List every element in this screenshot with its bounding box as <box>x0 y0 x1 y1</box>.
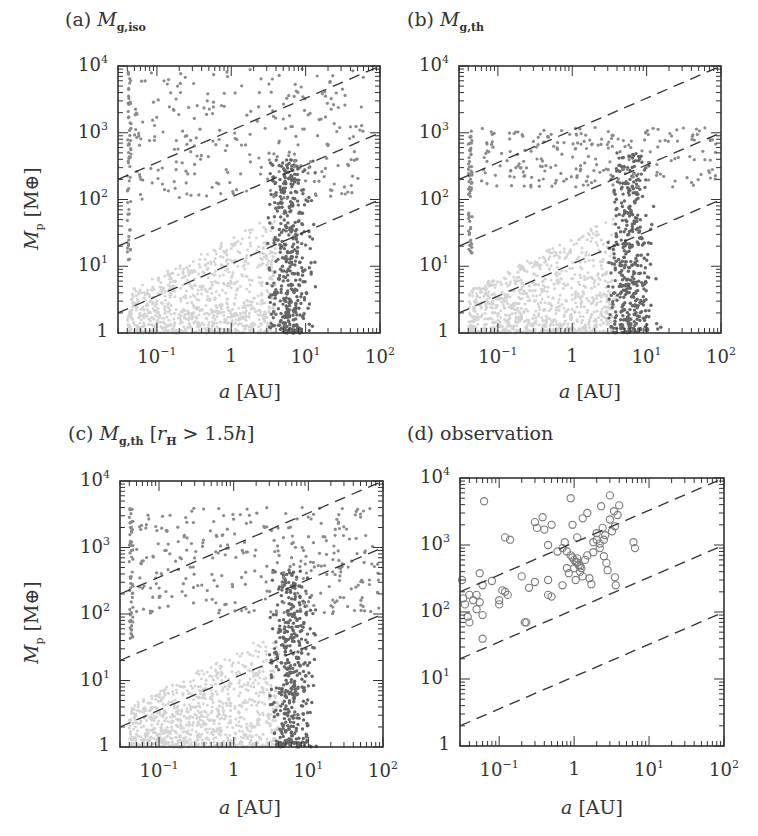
y-tick-label: 1 <box>400 733 450 754</box>
panel-label: (c) <box>68 422 93 444</box>
scatter-plot-c <box>120 481 383 747</box>
panel-title-sub: g,iso <box>117 21 146 34</box>
y-tick-label: 102 <box>60 601 110 623</box>
reference-dashed-line <box>120 481 383 594</box>
y-tick-label: 1 <box>60 734 110 755</box>
data-points <box>459 492 639 643</box>
x-tick-label: 101 <box>617 345 677 367</box>
x-tick-label: 10−1 <box>129 759 189 781</box>
y-tick-label: 1 <box>399 320 449 341</box>
panel-title-sub: g,th <box>460 21 485 34</box>
reference-dashed-line <box>118 66 380 179</box>
panel-a-title: (a) Mg,iso <box>65 8 146 34</box>
y-tick-label: 101 <box>400 666 450 688</box>
x-axis-label-b: a [AU] <box>530 380 650 402</box>
panel-title-sub: g,th <box>119 435 144 448</box>
panel-title-var: M <box>440 8 459 30</box>
reference-dashed-line <box>459 66 721 179</box>
panel-title-var: M <box>97 8 116 30</box>
x-tick-label: 101 <box>619 758 679 780</box>
axis-ticks <box>459 66 721 333</box>
panel-title-text: observation <box>440 422 553 444</box>
axis-ticks <box>460 478 724 746</box>
x-tick-label: 10−1 <box>468 345 528 367</box>
data-points <box>467 126 718 335</box>
x-tick-label: 101 <box>276 345 336 367</box>
x-tick-label: 102 <box>353 759 413 781</box>
scatter-plot-d <box>460 478 724 746</box>
panel-title-condition: [rH > 1.5h] <box>150 422 255 444</box>
y-tick-label: 1 <box>58 320 108 341</box>
x-tick-label: 10−1 <box>469 758 529 780</box>
panel-label: (b) <box>407 8 434 30</box>
panel-c-title: (c) Mg,th [rH > 1.5h] <box>68 422 254 448</box>
x-tick-label: 102 <box>691 345 751 367</box>
x-tick-label: 101 <box>278 759 338 781</box>
y-tick-label: 104 <box>58 53 108 75</box>
x-axis-label-a: a [AU] <box>190 380 310 402</box>
x-tick-label: 1 <box>544 758 604 779</box>
y-tick-label: 102 <box>400 599 450 621</box>
y-tick-label: 103 <box>399 120 449 142</box>
y-tick-label: 101 <box>60 668 110 690</box>
y-tick-label: 103 <box>400 532 450 554</box>
x-tick-label: 102 <box>350 345 410 367</box>
y-axis-label-top: Mp [M⊕] <box>20 167 46 250</box>
data-points <box>128 506 381 749</box>
scatter-plot-a <box>118 66 380 333</box>
plot-frame <box>460 478 724 746</box>
y-axis-label-bottom: Mp [M⊕] <box>20 581 46 664</box>
y-tick-label: 103 <box>58 120 108 142</box>
y-tick-label: 102 <box>399 187 449 209</box>
panel-b-title: (b) Mg,th <box>407 8 484 34</box>
data-points <box>126 68 365 335</box>
x-tick-label: 1 <box>542 345 602 366</box>
x-tick-label: 102 <box>694 758 754 780</box>
y-tick-label: 104 <box>60 468 110 490</box>
y-tick-label: 103 <box>60 535 110 557</box>
y-tick-label: 102 <box>58 187 108 209</box>
reference-dashed-line <box>118 200 380 313</box>
reference-dashed-line <box>460 545 724 659</box>
reference-dashed-line <box>460 612 724 726</box>
x-tick-label: 1 <box>204 759 264 780</box>
x-axis-label-c: a [AU] <box>190 796 310 818</box>
y-tick-label: 104 <box>400 465 450 487</box>
reference-dashed-line <box>459 200 721 313</box>
plot-frame <box>459 66 721 333</box>
panel-d-title: (d) observation <box>407 422 553 444</box>
reference-dashed-line <box>460 478 724 592</box>
panel-label: (a) <box>65 8 91 30</box>
x-tick-label: 1 <box>201 345 261 366</box>
y-tick-label: 101 <box>58 253 108 275</box>
y-tick-label: 104 <box>399 53 449 75</box>
reference-dashed-line <box>120 548 383 661</box>
scatter-plot-b <box>459 66 721 333</box>
x-tick-label: 10−1 <box>127 345 187 367</box>
y-tick-label: 101 <box>399 253 449 275</box>
x-axis-label-d: a [AU] <box>532 796 652 818</box>
panel-label: (d) <box>407 422 434 444</box>
panel-title-var: M <box>100 422 119 444</box>
